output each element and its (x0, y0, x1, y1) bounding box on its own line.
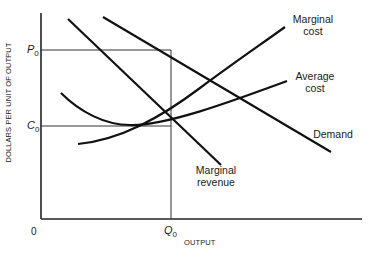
average-cost-curve (61, 81, 287, 125)
average-cost-label: Average cost (290, 70, 340, 94)
p0-label: P0 (27, 43, 39, 58)
q0-label: Q0 (164, 224, 177, 239)
origin-label: 0 (31, 226, 37, 238)
x-axis-title: OUTPUT (184, 238, 215, 247)
c0-label: C0 (27, 119, 39, 134)
demand-label: Demand (308, 128, 358, 140)
marginal-revenue-label: Marginal revenue (190, 164, 242, 188)
y-axis-title: DOLLARS PER UNIT OF OUTPUT (4, 43, 13, 163)
marginal-cost-label: Marginal cost (288, 13, 338, 37)
